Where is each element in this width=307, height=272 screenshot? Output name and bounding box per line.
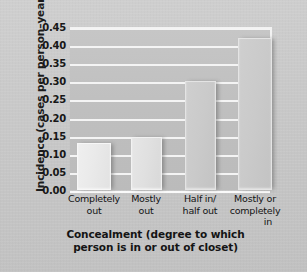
x-axis-title: Concealment (degree to which person is i… xyxy=(18,228,293,254)
bar xyxy=(77,143,111,190)
bar-chart-figure: Incidence (cases per person–year) 0.000.… xyxy=(0,0,307,272)
y-axis-tick-label: 0.20 xyxy=(36,112,66,123)
x-tick-line-1: Mostly or xyxy=(234,193,276,204)
x-axis-title-line-2: person is in or out of closet) xyxy=(73,241,238,253)
y-axis-tick-label: 0.05 xyxy=(36,166,66,177)
y-axis-tick-label: 0.15 xyxy=(36,130,66,141)
x-axis-title-line-1: Concealment (degree to which xyxy=(66,228,244,240)
x-tick-line-1: Half in/ xyxy=(184,193,216,204)
x-tick-line-1: Mostly xyxy=(131,193,161,204)
y-axis-tick-label: 0.40 xyxy=(36,40,66,51)
y-axis-tick-labels: 0.000.050.100.150.200.250.300.350.400.45 xyxy=(36,27,66,190)
y-axis-tick-label: 0.10 xyxy=(36,148,66,159)
plot-area xyxy=(70,27,272,190)
x-tick-line-3: in xyxy=(248,216,288,228)
bar-series xyxy=(70,29,270,190)
bar xyxy=(185,81,216,190)
bar xyxy=(238,38,272,190)
x-axis-tick-label: Mostly orcompletelyin xyxy=(222,193,288,228)
y-axis-tick-label: 0.30 xyxy=(36,76,66,87)
y-axis-tick-label: 0.35 xyxy=(36,58,66,69)
y-axis-tick-label: 0.45 xyxy=(36,22,66,33)
bar xyxy=(131,137,162,190)
y-axis-tick-label: 0.25 xyxy=(36,94,66,105)
x-tick-line-2: completely xyxy=(222,205,288,217)
x-axis-category-labels: CompletelyoutMostlyoutHalf in/half outMo… xyxy=(70,193,280,231)
